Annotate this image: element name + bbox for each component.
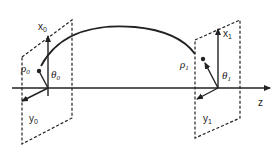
y0-label: y0 [29,113,38,125]
input-plane-outline [22,20,72,144]
input-plane [22,20,72,144]
theta0-label: θ0 [51,68,60,82]
rho0-point [37,69,41,73]
z-label: z [258,97,263,108]
x0-label: x0 [38,21,47,33]
ray-curve [41,26,195,66]
rho0-label: ρ0 [20,62,30,76]
x1-label: x1 [223,28,232,40]
y1-label: y1 [203,113,212,125]
output-plane [195,20,240,138]
theta1-label: θ1 [222,69,231,83]
y0-axis [22,88,48,101]
rho1-label: ρ1 [179,58,189,72]
ray-diagram: x0 y0 ρ0 θ0 x1 y1 ρ1 θ1 z [0,0,277,160]
rho1-point [201,57,205,61]
y1-axis [197,88,218,99]
rho0-vector [40,73,48,88]
rho1-vector [205,63,218,88]
